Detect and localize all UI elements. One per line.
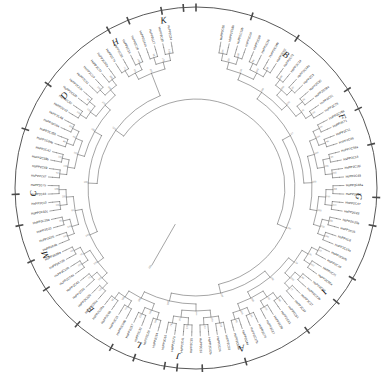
leaf-label: HsPP2C18b (228, 24, 236, 42)
leaf-branch (252, 52, 254, 56)
internal-branch (169, 54, 170, 61)
internal-branch (139, 63, 142, 69)
internal-branch (302, 250, 308, 254)
leaf-branch (300, 85, 303, 88)
leaf-branch (81, 278, 84, 281)
leaf-label: HsPP2C18 (130, 35, 140, 51)
internal-branch (167, 322, 168, 329)
leaf-branch (303, 284, 306, 287)
internal-branch (74, 247, 80, 250)
bootstrap-value: 100 (98, 287, 103, 292)
internal-branch (115, 293, 119, 299)
internal-branch (90, 102, 95, 106)
internal-branch (169, 293, 171, 301)
leaf-branch (337, 160, 341, 161)
internal-branch (333, 177, 340, 178)
leaf-branch (337, 219, 341, 220)
internal-branch (218, 316, 219, 323)
internal-branch (287, 291, 292, 296)
leaf-branch (318, 265, 321, 267)
leaf-branch (51, 219, 55, 220)
internal-branch (90, 112, 96, 116)
bootstrap-value: 95 (326, 140, 330, 144)
bootstrap-value: 100 (320, 225, 325, 229)
leaf-branch (335, 227, 339, 228)
leaf-branch (220, 42, 221, 46)
leaf-label: HsPP2C17b (249, 327, 259, 345)
bootstrap-value: 100 (195, 311, 198, 316)
bootstrap-value: 100 (286, 100, 291, 105)
leaf-branch (73, 105, 76, 107)
internal-branch (297, 102, 302, 106)
internal-branch (236, 58, 238, 65)
bootstrap-value: 100 (186, 324, 189, 329)
leaf-label: HsPP2C64 (151, 332, 159, 348)
internal-branch (159, 320, 161, 327)
leaf-branch (333, 143, 337, 144)
internal-branch (54, 209, 61, 210)
internal-branch (287, 90, 292, 95)
leaf-branch (256, 319, 258, 323)
leaf-label: HsPP2C73 (170, 336, 176, 352)
bootstrap-value: 100 (107, 85, 112, 90)
bootstrap-value: 100 (255, 68, 260, 74)
internal-branch (105, 77, 109, 82)
leaf-branch (102, 74, 105, 77)
internal-branch (103, 283, 108, 288)
bootstrap-value: 100 (311, 110, 317, 115)
leaf-branch (53, 152, 57, 153)
leaf-label: HsPP2C53 (224, 335, 231, 351)
leaf-branch (244, 49, 245, 53)
leaf-branch (56, 235, 60, 236)
internal-branch (128, 309, 131, 315)
bootstrap-value: 53 (294, 261, 298, 265)
internal-branch (111, 90, 116, 95)
leaf-branch (89, 85, 92, 88)
leaf-branch (65, 120, 69, 122)
leaf-label: HsPP2C67 (31, 174, 47, 179)
leaf-branch (75, 271, 78, 273)
bootstrap-value: 100 (239, 310, 243, 315)
leaf-label: HsPP2C13 (343, 155, 359, 162)
internal-branch (308, 267, 314, 271)
internal-branch (82, 260, 88, 264)
internal-branch (132, 59, 135, 65)
bootstrap-value: 100 (77, 262, 83, 267)
leaf-branch (163, 44, 164, 48)
leaf-label: HsPP2C47 (345, 201, 361, 207)
bootstrap-value: 100 (314, 151, 319, 155)
leaf-branch (236, 46, 237, 50)
leaf-branch (338, 210, 342, 211)
bootstrap-value: 79 (170, 323, 174, 327)
bootstrap-value: 100 (332, 171, 337, 174)
bootstrap-value: 100 (324, 164, 329, 168)
clade-arc (261, 293, 274, 301)
leaf-branch (305, 92, 308, 95)
internal-branch (277, 224, 286, 228)
leaf-branch (267, 59, 269, 62)
internal-branch (238, 73, 241, 80)
bootstrap-value: 98 (266, 66, 270, 70)
bootstrap-value: 77 (289, 288, 293, 292)
internal-branch (92, 88, 97, 93)
bootstrap-value: 100 (149, 69, 153, 74)
leaf-branch (327, 128, 331, 130)
internal-branch (135, 73, 138, 79)
leaf-branch (315, 105, 318, 107)
internal-branch (219, 46, 220, 53)
leaf-label: HsPP2C16i (344, 164, 361, 170)
bootstrap-value: 87 (179, 317, 182, 321)
internal-branch (181, 310, 182, 317)
bootstrap-value: 93 (330, 155, 334, 159)
internal-branch (79, 267, 85, 271)
internal-branch (227, 62, 229, 69)
internal-branch (256, 59, 259, 65)
leaf-branch (55, 143, 59, 144)
bootstrap-value: 100 (93, 260, 99, 265)
leaf-branch (331, 135, 335, 136)
internal-branch (154, 58, 156, 65)
internal-branch (331, 161, 338, 162)
leaf-branch (51, 160, 55, 161)
leaf-branch (225, 329, 226, 333)
internal-branch (223, 322, 224, 329)
